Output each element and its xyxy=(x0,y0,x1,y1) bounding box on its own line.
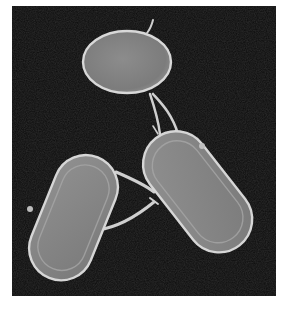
cell-surface-bump xyxy=(27,206,33,212)
image-canvas xyxy=(0,0,288,311)
micrograph-frame xyxy=(12,6,276,296)
cell-surface-bump xyxy=(199,143,205,149)
micrograph-svg xyxy=(12,6,276,296)
